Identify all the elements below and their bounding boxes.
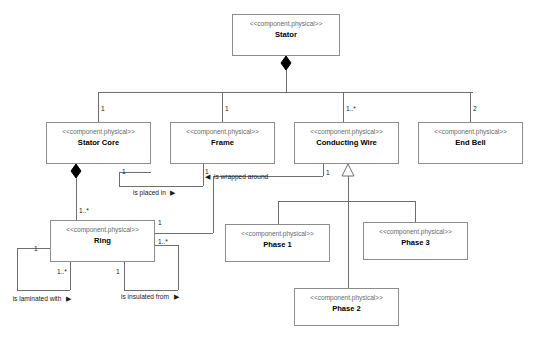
multiplicity-conducting-wire: 1..*	[346, 105, 356, 112]
class-box-conducting-wire[interactable]: <<component.physical>> Conducting Wire	[294, 122, 399, 164]
multiplicity-ring-right: 1..*	[158, 238, 168, 245]
class-name-label: Ring	[94, 236, 111, 245]
class-box-phase-2[interactable]: <<component.physical>> Phase 2	[294, 288, 399, 326]
multiplicity-end-bell: 2	[473, 105, 477, 112]
stereotype-label: <<component.physical>>	[186, 128, 259, 136]
stereotype-label: <<component.physical>>	[241, 230, 314, 238]
class-box-phase-1[interactable]: <<component.physical>> Phase 1	[225, 224, 330, 262]
class-box-end-bell[interactable]: <<component.physical>> End Bell	[418, 122, 523, 164]
stereotype-label: <<component.physical>>	[310, 294, 383, 302]
edge-label-text: is insulated from	[121, 293, 169, 300]
stereotype-label: <<component.physical>>	[66, 226, 139, 234]
class-name-label: End Bell	[455, 138, 485, 147]
edge-label-is-insulated-from: is insulated from ▶	[118, 293, 172, 301]
multiplicity-core-placed-in: 1	[122, 168, 126, 175]
arrow-right-icon: ▶	[170, 189, 175, 196]
multiplicity-ring-laminated-left: 1	[34, 245, 38, 252]
multiplicity-stator-core: 1	[101, 105, 105, 112]
arrow-right-icon: ▶	[174, 293, 179, 301]
class-name-label: Conducting Wire	[316, 138, 377, 147]
uml-component-diagram: <<component.physical>> Stator <<componen…	[0, 0, 536, 343]
multiplicity-core-to-ring: 1..*	[79, 207, 89, 214]
class-name-label: Phase 3	[401, 238, 430, 247]
multiplicity-ring-wrapped: 1	[158, 219, 162, 226]
multiplicity-frame: 1	[225, 105, 229, 112]
class-box-stator[interactable]: <<component.physical>> Stator	[232, 14, 340, 56]
class-box-frame[interactable]: <<component.physical>> Frame	[170, 122, 275, 164]
stereotype-label: <<component.physical>>	[434, 128, 507, 136]
edge-label-text: is placed in	[133, 189, 166, 196]
stereotype-label: <<component.physical>>	[250, 20, 323, 28]
composition-diamond-stator	[281, 56, 291, 70]
edge-label-text: is wrapped around	[214, 173, 268, 180]
edge-label-is-wrapped-around: ◀is wrapped around	[205, 173, 268, 181]
multiplicity-ring-insulated-bottom: 1	[116, 268, 120, 275]
arrow-left-icon: ◀	[205, 173, 210, 180]
edge-label-text: is laminated with	[13, 295, 62, 302]
class-box-ring[interactable]: <<component.physical>> Ring	[50, 220, 155, 262]
class-name-label: Phase 1	[263, 240, 292, 249]
class-box-phase-3[interactable]: <<component.physical>> Phase 3	[363, 222, 468, 260]
multiplicity-wire-wrapped: 1	[326, 169, 330, 176]
stereotype-label: <<component.physical>>	[62, 128, 135, 136]
composition-diamond-stator-core	[71, 164, 81, 178]
stereotype-label: <<component.physical>>	[310, 128, 383, 136]
class-box-stator-core[interactable]: <<component.physical>> Stator Core	[46, 122, 151, 164]
class-name-label: Frame	[211, 138, 234, 147]
edge-label-is-placed-in: is placed in▶	[133, 189, 175, 197]
multiplicity-ring-laminated-bottom: 1..*	[57, 268, 67, 275]
generalization-triangle-conducting-wire	[342, 164, 354, 176]
class-name-label: Stator	[275, 30, 297, 39]
edge-label-is-laminated-with: is laminated with ▶	[10, 295, 64, 303]
class-name-label: Phase 2	[332, 304, 361, 313]
class-name-label: Stator Core	[78, 138, 119, 147]
arrow-right-icon: ▶	[66, 295, 71, 303]
stereotype-label: <<component.physical>>	[379, 228, 452, 236]
